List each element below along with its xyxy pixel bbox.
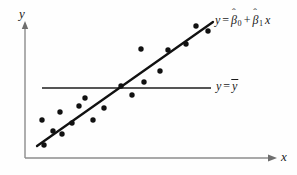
y-bar-symbol: y xyxy=(232,79,237,93)
scatter-point xyxy=(82,95,87,100)
y-bar-overline xyxy=(231,79,238,80)
scatter-point xyxy=(205,28,210,33)
beta0-hat: ˆ xyxy=(232,7,236,18)
scatter-point xyxy=(193,23,198,28)
scatter-point xyxy=(39,117,44,122)
beta0-term: ˆβ xyxy=(231,14,237,26)
y-axis-arrowhead xyxy=(22,21,28,29)
regression-line xyxy=(37,22,213,146)
axes-group xyxy=(22,21,277,161)
mean-line-label: y=y xyxy=(216,80,237,92)
regression-label-x: x xyxy=(263,13,270,27)
scatter-point xyxy=(183,41,188,46)
scatter-point xyxy=(157,68,162,73)
x-axis-arrowhead xyxy=(268,155,277,162)
scatter-point xyxy=(101,105,106,110)
beta0-subscript: 0 xyxy=(237,19,242,28)
scatter-point xyxy=(165,47,170,52)
regression-label-equals: = xyxy=(220,13,231,27)
scatter-point xyxy=(129,92,134,97)
beta1-term: ˆβ xyxy=(252,14,258,26)
scatter-point xyxy=(41,142,46,147)
scatter-point xyxy=(118,83,123,88)
scatter-point xyxy=(57,109,62,114)
regression-line-label: y=ˆβ0+ˆβ1x xyxy=(215,14,270,28)
scatter-point xyxy=(141,79,146,84)
scatter-point xyxy=(76,103,81,108)
regression-label-plus: + xyxy=(242,13,253,27)
y-bar-term: y xyxy=(232,80,237,92)
scatter-point xyxy=(59,131,64,136)
scatter-point xyxy=(69,120,74,125)
x-axis-label: x xyxy=(281,150,287,163)
scatter-point xyxy=(50,128,55,133)
mean-label-equals: = xyxy=(221,79,232,93)
scatter-point xyxy=(90,117,95,122)
scatter-point xyxy=(138,46,143,51)
scatter-points xyxy=(39,23,210,147)
y-axis-label: y xyxy=(19,7,25,20)
beta1-hat: ˆ xyxy=(253,7,257,18)
regression-line-segment xyxy=(37,22,213,146)
regression-figure: y x y=ˆβ0+ˆβ1x y=y xyxy=(0,0,297,175)
